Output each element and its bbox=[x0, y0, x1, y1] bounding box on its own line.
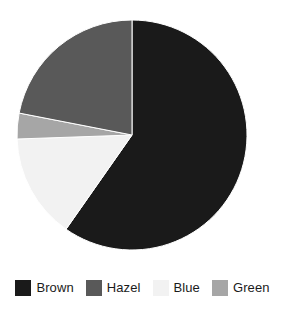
legend-item-hazel[interactable]: Hazel bbox=[86, 280, 141, 296]
pie-chart-figure: Brown Hazel Blue Green bbox=[0, 0, 285, 313]
pie-chart-svg bbox=[0, 0, 285, 262]
legend-label-hazel: Hazel bbox=[107, 280, 141, 296]
legend-label-blue: Blue bbox=[174, 280, 200, 296]
legend-swatch-blue-icon bbox=[153, 280, 169, 296]
legend-swatch-green-icon bbox=[212, 280, 228, 296]
pie-plot-area bbox=[0, 0, 285, 262]
legend-item-blue[interactable]: Blue bbox=[153, 280, 200, 296]
legend-item-green[interactable]: Green bbox=[212, 280, 270, 296]
legend-swatch-hazel-icon bbox=[86, 280, 102, 296]
chart-legend: Brown Hazel Blue Green bbox=[0, 268, 285, 308]
legend-swatch-brown-icon bbox=[15, 280, 31, 296]
pie-slice-group bbox=[17, 20, 247, 250]
legend-item-brown[interactable]: Brown bbox=[15, 280, 73, 296]
legend-label-brown: Brown bbox=[36, 280, 73, 296]
legend-label-green: Green bbox=[233, 280, 270, 296]
